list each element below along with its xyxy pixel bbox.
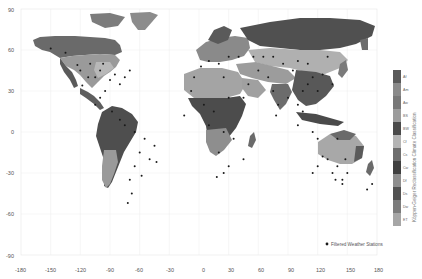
weather-station-point	[216, 176, 218, 178]
africa-north	[184, 68, 246, 98]
colorbar-label: BS	[403, 114, 408, 118]
weather-station-point	[218, 63, 220, 65]
weather-station-point	[79, 70, 81, 72]
weather-station-point	[327, 56, 329, 58]
weather-station-point	[139, 152, 141, 154]
weather-station-point	[335, 179, 337, 181]
weather-station-point	[302, 111, 304, 113]
weather-station-point	[119, 83, 121, 85]
weather-station-point	[228, 165, 230, 167]
x-tick: -150	[45, 267, 56, 273]
weather-station-point	[149, 158, 151, 160]
weather-station-point	[312, 172, 314, 174]
climate-map-chart: -180 -150 -120 -90 -60 -30 0 30 60 90 12…	[0, 0, 422, 279]
weather-station-point	[366, 188, 368, 190]
weather-station-point	[213, 111, 215, 113]
weather-station-point	[203, 104, 205, 106]
weather-station-point	[233, 138, 235, 140]
weather-station-point	[94, 104, 96, 106]
weather-station-point	[267, 76, 269, 78]
weather-station-point	[297, 104, 299, 106]
colorbar-label: Aw	[403, 101, 408, 105]
weather-station-point	[371, 183, 373, 185]
weather-station-point	[223, 76, 225, 78]
weather-station-point	[312, 131, 314, 133]
colorbar-label: Cs	[403, 153, 408, 157]
y-tick: 0	[11, 129, 14, 135]
colorbar-label: Ds	[403, 192, 408, 196]
y-tick: 60	[8, 47, 14, 53]
weather-station-point	[156, 161, 158, 163]
x-axis: -180 -150 -120 -90 -60 -30 0 30 60 90 12…	[15, 267, 383, 273]
weather-station-point	[154, 145, 156, 147]
weather-station-point	[257, 70, 259, 72]
x-tick: 0	[202, 267, 205, 273]
weather-station-point	[119, 119, 121, 121]
weather-station-point	[208, 124, 210, 126]
colorbar-label: Df	[403, 179, 407, 183]
weather-station-point	[317, 90, 319, 92]
weather-station-point	[277, 104, 279, 106]
weather-station-point	[223, 172, 225, 174]
weather-station-point	[223, 131, 225, 133]
colorbar-label: Cw	[403, 166, 409, 170]
weather-station-point	[228, 97, 230, 99]
weather-station-point	[127, 202, 129, 204]
weather-station-point	[336, 165, 338, 167]
y-tick: -90	[6, 253, 14, 259]
weather-station-point	[109, 79, 111, 81]
weather-station-point	[111, 111, 113, 113]
weather-station-point	[262, 56, 264, 58]
weather-station-point	[317, 165, 319, 167]
weather-station-point	[327, 158, 329, 160]
weather-station-point	[131, 193, 133, 195]
weather-station-point	[208, 60, 210, 62]
weather-station-point	[247, 83, 249, 85]
x-tick: 120	[316, 267, 325, 273]
colorbar-label: Dw	[403, 205, 409, 209]
y-tick: -60	[6, 211, 14, 217]
weather-station-point	[302, 90, 304, 92]
weather-station-point	[336, 138, 338, 140]
weather-station-point	[322, 74, 324, 76]
weather-station-point	[129, 179, 131, 181]
weather-station-point	[99, 70, 101, 72]
x-tick: 90	[288, 267, 294, 273]
x-tick: -30	[166, 267, 174, 273]
x-tick: -60	[135, 267, 143, 273]
weather-station-point	[104, 90, 106, 92]
weather-station-point	[134, 165, 136, 167]
weather-station-point	[344, 158, 346, 160]
colorbar-label: ET	[403, 218, 408, 222]
weather-station-point	[50, 48, 52, 50]
legend-label: Filtered Weather Stations	[331, 242, 383, 247]
weather-station-point	[238, 56, 240, 58]
colorbar-label: Am	[403, 88, 408, 92]
colorbar-label: Af	[403, 75, 406, 79]
weather-station-point	[322, 156, 324, 158]
weather-station-point	[307, 83, 309, 85]
x-tick: 150	[346, 267, 355, 273]
legend: Filtered Weather Stations	[326, 242, 384, 247]
weather-station-point	[65, 52, 67, 54]
weather-station-point	[183, 115, 185, 117]
weather-station-point	[317, 138, 319, 140]
weather-station-point	[272, 90, 274, 92]
weather-station-point	[332, 172, 334, 174]
weather-station-point	[76, 64, 78, 66]
weather-station-point	[190, 90, 192, 92]
colorbar: Af Am Aw BS BW Cf Cs Cw Df Ds Dw ET Köpp…	[393, 70, 417, 226]
y-tick: -30	[6, 170, 14, 176]
weather-station-point	[87, 76, 89, 78]
weather-station-point	[99, 97, 101, 99]
station-marker-icon	[326, 243, 329, 246]
x-tick: -90	[106, 267, 114, 273]
weather-station-point	[243, 97, 245, 99]
weather-station-point	[134, 131, 136, 133]
weather-station-point	[124, 76, 126, 78]
weather-station-point	[243, 158, 245, 160]
weather-station-point	[89, 63, 91, 65]
x-tick: -120	[75, 267, 86, 273]
colorbar-title: Köppen-Geiger Reclassification Climate C…	[412, 112, 417, 222]
weather-station-point	[282, 63, 284, 65]
